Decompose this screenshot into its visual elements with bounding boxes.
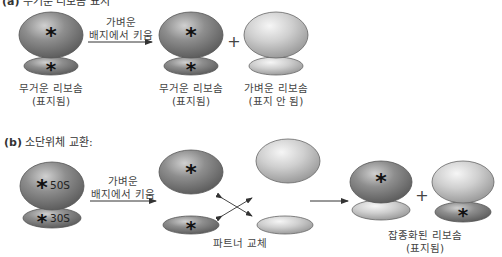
panel-a-start-label: 무거운 리보솜 (표지됨) — [16, 82, 86, 108]
panel-b-arrow-label: 가벼운 배지에서 키움 — [90, 175, 156, 201]
panel-b-hybrid-1: * — [350, 161, 412, 220]
svg-text:*: * — [458, 203, 469, 227]
panel-a-arrow-label: 가벼운 배지에서 키움 — [88, 16, 154, 42]
svg-text:50S: 50S — [50, 179, 70, 191]
svg-text:*: * — [185, 160, 197, 185]
panel-a-heavy-label: 무거운 리보솜 (표지됨) — [156, 82, 226, 108]
panel-b-title: (b) 소단위체 교환: — [4, 133, 93, 149]
panel-b-start-ribosome: * 50S * 30S — [20, 162, 84, 233]
panel-a-result-light — [244, 12, 308, 75]
panel-a-result-heavy: * * — [159, 12, 223, 81]
panel-a-light-label: 가벼운 리보솜 (표지 안 됨) — [240, 82, 312, 108]
light-small-subunit — [257, 216, 313, 234]
panel-b-hybrid-2: * — [432, 161, 494, 227]
light-large-subunit — [256, 139, 320, 183]
panel-a-title: (a) 무거운 리보솜 표지 — [2, 0, 110, 8]
panel-b-hybrid-label: 잡종화된 리보솜 (표지됨) — [385, 229, 465, 255]
panel-b-plus: + — [415, 186, 428, 205]
panel-a-start-ribosome: * * — [19, 12, 83, 81]
svg-text:*: * — [186, 57, 197, 81]
svg-text:*: * — [37, 209, 48, 233]
label-marker-icon: * — [45, 23, 57, 48]
svg-text:30S: 30S — [50, 212, 70, 224]
panel-b-separated-subunits: * * — [159, 139, 320, 240]
svg-text:*: * — [375, 169, 387, 194]
svg-text:*: * — [185, 23, 197, 48]
svg-text:*: * — [186, 216, 197, 240]
label-marker-icon: * — [46, 57, 57, 81]
svg-text:*: * — [36, 175, 48, 200]
panel-b-exchange-label: 파트너 교체 — [205, 237, 275, 250]
panel-a-plus: + — [227, 32, 240, 51]
